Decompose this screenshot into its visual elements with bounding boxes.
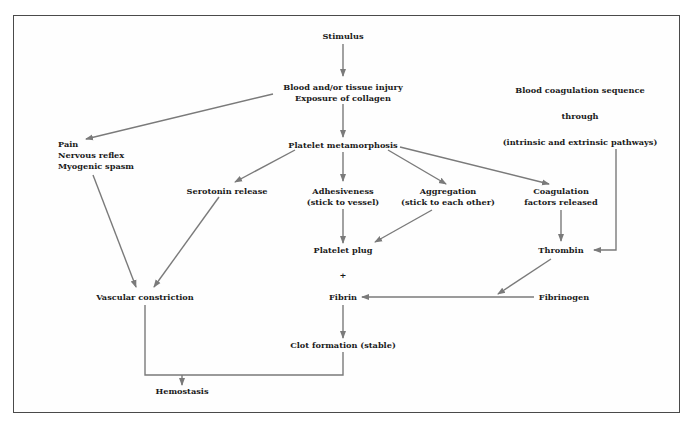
node-fibrin: Fibrin	[329, 292, 357, 303]
node-pain-line1: Pain	[58, 139, 134, 150]
node-coag-factors-line1: Coagulation	[524, 186, 598, 197]
node-serotonin: Serotonin release	[187, 186, 268, 197]
node-hemostasis: Hemostasis	[155, 386, 208, 397]
node-stimulus: Stimulus	[322, 31, 363, 42]
node-thrombin: Thrombin	[538, 245, 583, 256]
node-coag-sequence-line2: through	[561, 111, 598, 122]
edge-metamorphosis-coagfactors	[400, 147, 549, 184]
edge-metamorphosis-serotonin	[235, 150, 295, 182]
node-injury: Blood and/or tissue injury Exposure of c…	[283, 82, 402, 104]
node-coag-sequence-line3: (intrinsic and extrinsic pathways)	[503, 137, 658, 148]
node-aggregation-line2: (stick to each other)	[401, 197, 495, 208]
node-aggregation: Aggregation (stick to each other)	[401, 186, 495, 208]
edge-injury-pain	[86, 94, 273, 139]
node-adhesiveness-line2: (stick to vessel)	[307, 197, 379, 208]
edge-aggregation-plug	[375, 210, 432, 242]
node-platelet-plug: Platelet plug	[313, 245, 372, 256]
node-clot-formation: Clot formation (stable)	[290, 340, 396, 351]
node-aggregation-line1: Aggregation	[401, 186, 495, 197]
edge-thrombin-fibrin	[498, 259, 551, 294]
node-coag-sequence-line1: Blood coagulation sequence	[515, 85, 644, 96]
node-adhesiveness: Adhesiveness (stick to vessel)	[307, 186, 379, 208]
node-vascular-constriction: Vascular constriction	[96, 292, 194, 303]
node-injury-line2: Exposure of collagen	[283, 93, 402, 104]
node-pain-line3: Myogenic spasm	[58, 161, 134, 172]
node-fibrinogen: Fibrinogen	[539, 292, 589, 303]
node-pain-line2: Nervous reflex	[58, 150, 134, 161]
node-adhesiveness-line1: Adhesiveness	[307, 186, 379, 197]
edge-metamorphosis-aggregation	[388, 150, 446, 184]
node-plus: +	[340, 270, 347, 281]
edge-pain-vascular	[93, 175, 136, 287]
node-injury-line1: Blood and/or tissue injury	[283, 82, 402, 93]
diagram-arrows	[0, 0, 689, 423]
node-platelet-metamorphosis: Platelet metamorphosis	[288, 140, 397, 151]
node-coag-factors: Coagulation factors released	[524, 186, 598, 208]
node-coag-factors-line2: factors released	[524, 197, 598, 208]
node-pain: Pain Nervous reflex Myogenic spasm	[58, 139, 134, 172]
edge-serotonin-vascular	[154, 197, 219, 287]
